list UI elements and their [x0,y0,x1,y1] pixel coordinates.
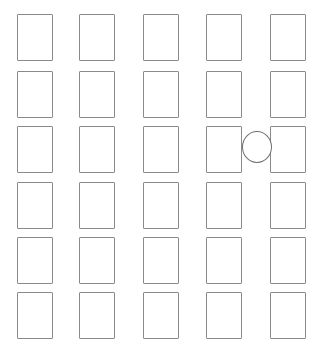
grid-cell[interactable] [17,126,53,173]
grid-cell[interactable] [17,14,53,61]
grid-cell[interactable] [206,237,242,284]
grid-cell[interactable] [270,14,306,61]
grid-cell[interactable] [143,71,179,118]
grid-cell[interactable] [17,237,53,284]
grid-cell[interactable] [17,292,53,339]
grid-cell[interactable] [206,71,242,118]
grid-cell[interactable] [17,71,53,118]
grid-cell[interactable] [143,14,179,61]
grid-cell[interactable] [270,126,306,173]
grid-cell[interactable] [79,182,115,229]
grid-cell[interactable] [206,292,242,339]
grid-cell[interactable] [79,71,115,118]
grid-cell[interactable] [270,182,306,229]
diagram-canvas [0,0,322,350]
grid-cell[interactable] [79,292,115,339]
grid-cell[interactable] [206,126,242,173]
grid-cell[interactable] [206,182,242,229]
grid-cell[interactable] [270,71,306,118]
grid-cell[interactable] [143,292,179,339]
grid-cell[interactable] [79,126,115,173]
grid-cell[interactable] [79,237,115,284]
circle-marker[interactable] [242,131,272,163]
grid-cell[interactable] [17,182,53,229]
grid-cell[interactable] [143,182,179,229]
grid-cell[interactable] [270,292,306,339]
grid-cell[interactable] [206,14,242,61]
grid-cell[interactable] [143,126,179,173]
grid-cell[interactable] [143,237,179,284]
grid-cell[interactable] [79,14,115,61]
grid-cell[interactable] [270,237,306,284]
